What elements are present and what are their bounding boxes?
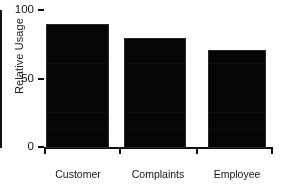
- y-tick-50: [38, 78, 44, 80]
- x-label-customer-satisfaction: Customer Satisfaction: [46, 155, 110, 190]
- bar-chart: Relative Usage 100 50 0 Customer Satisfa…: [0, 0, 282, 190]
- x-label-employee-satisfaction: Employee Satisfaction: [204, 155, 270, 190]
- x-tick-left: [44, 149, 46, 154]
- y-tick-100: [38, 9, 44, 11]
- y-tick-0: [38, 146, 44, 148]
- x-label-line1: Complaints: [126, 168, 190, 181]
- y-tick-label-100: 100: [4, 3, 34, 15]
- x-label-line1: Employee: [204, 168, 270, 181]
- y-axis-title: Relative Usage: [13, 1, 25, 111]
- x-label-complaints: Complaints: [126, 155, 190, 190]
- x-tick-2: [196, 149, 198, 154]
- y-axis-line: [0, 10, 2, 148]
- y-tick-label-0: 0: [4, 140, 34, 152]
- x-label-line1: Customer: [46, 168, 110, 181]
- x-tick-1: [119, 149, 121, 154]
- bar-customer-satisfaction: [46, 24, 109, 148]
- x-tick-right: [271, 149, 273, 154]
- y-tick-label-50: 50: [4, 72, 34, 84]
- bar-complaints: [124, 38, 186, 148]
- bar-employee-satisfaction: [208, 50, 266, 148]
